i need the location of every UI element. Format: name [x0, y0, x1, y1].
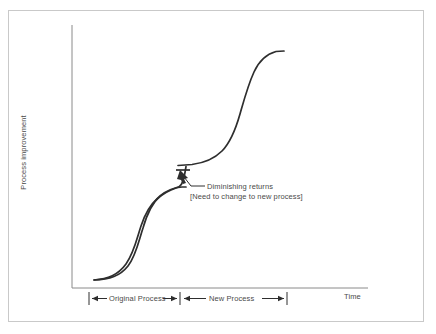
bracket-arrow-left-new-icon: [184, 296, 190, 301]
figure-root: Process improvement Time Diminishing ret…: [0, 0, 436, 334]
annotation-leader-line: [184, 177, 205, 186]
annotation-arrow-icon: [177, 170, 188, 184]
annotation-diminishing-returns-line2: [Need to change to new process]: [190, 192, 303, 201]
curve-original-process: [94, 167, 186, 281]
x-axis-label: Time: [344, 292, 361, 301]
chart-canvas: [0, 0, 436, 334]
segment-label-original-process: Original Process: [109, 294, 166, 303]
y-axis-label: Process improvement: [19, 93, 28, 213]
bracket-arrow-right-new-icon: [278, 296, 284, 301]
annotation-diminishing-returns-line1: Diminishing returns: [207, 182, 273, 191]
bracket-arrow-left-original-icon: [92, 296, 98, 301]
curve-new-process: [178, 51, 284, 166]
segment-label-new-process: New Process: [209, 294, 254, 303]
curve-original-process-main: [94, 187, 186, 280]
bracket-arrow-right-original-icon: [171, 296, 177, 301]
